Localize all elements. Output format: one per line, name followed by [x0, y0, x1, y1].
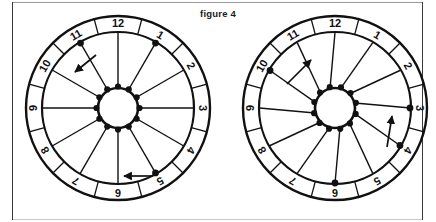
ring-segment-divider — [389, 43, 400, 54]
hub-dot — [338, 84, 344, 90]
direction-arrow-upper-left — [287, 60, 311, 84]
ring-number-9: 9 — [27, 105, 39, 111]
ring-segment-divider — [29, 84, 44, 88]
ring-segment-divider — [172, 43, 183, 54]
figure-canvas: figure 4 121234567891011 121234567891011 — [0, 0, 436, 222]
spoke — [136, 70, 184, 98]
hub-dot — [134, 116, 140, 122]
ring-number-7: 7 — [70, 175, 81, 188]
hub-dot — [317, 89, 323, 95]
ring-segment-divider — [172, 162, 183, 173]
ring-segment-divider — [191, 84, 206, 88]
ring-segment-divider — [389, 162, 400, 173]
page-frame-top-rule — [12, 2, 423, 3]
ring-segment-divider — [53, 162, 64, 173]
spoke — [128, 126, 156, 174]
spoke — [270, 70, 316, 102]
hub-dot — [326, 126, 332, 132]
ring-number-12: 12 — [112, 17, 124, 29]
hub-dot — [96, 116, 102, 122]
spoke — [297, 128, 329, 174]
ring-number-2: 2 — [185, 60, 198, 71]
spoke — [53, 70, 101, 98]
wheel-left-svg: 121234567891011 — [18, 8, 218, 208]
ring-segment-divider — [53, 43, 64, 54]
spoke — [330, 33, 335, 89]
hub-dot — [327, 84, 333, 90]
spoke — [260, 108, 316, 113]
hub-dot — [126, 86, 132, 92]
hub-dot — [134, 94, 140, 100]
ring-number-9: 9 — [244, 105, 256, 111]
wheel-left: 121234567891011 — [18, 8, 218, 212]
hub-dot — [311, 99, 317, 105]
rim-dot-4 — [397, 142, 404, 149]
hub-dot — [347, 90, 353, 96]
wheel-right: 121234567891011 — [235, 8, 435, 212]
spoke — [335, 128, 340, 184]
ring-segment-divider — [246, 84, 261, 88]
ring-segment-divider — [191, 128, 206, 132]
page-frame-bottom-rule — [12, 219, 423, 220]
direction-arrow-right — [387, 116, 392, 147]
hub-dot — [96, 94, 102, 100]
ring-number-5: 5 — [155, 175, 166, 188]
rim-dot-6 — [332, 180, 339, 187]
spoke — [270, 122, 321, 146]
ring-segment-divider — [29, 128, 44, 132]
spoke — [80, 43, 108, 91]
hub-dot — [115, 126, 121, 132]
hub-dot — [93, 105, 99, 111]
ring-segment-divider — [94, 19, 98, 34]
ring-segment-divider — [355, 181, 359, 196]
spoke — [341, 43, 373, 89]
ring-number-1: 1 — [372, 28, 383, 41]
page-frame-left-rule — [12, 2, 13, 220]
ring-number-6: 6 — [115, 187, 121, 199]
ring-segment-divider — [270, 162, 281, 173]
hub-dot — [353, 100, 359, 106]
rim-dot-1 — [152, 40, 159, 47]
wheel-right-svg: 121234567891011 — [235, 8, 435, 208]
ring-segment-divider — [94, 181, 98, 196]
ring-number-6: 6 — [332, 187, 338, 199]
ring-number-1: 1 — [155, 28, 166, 41]
spoke — [355, 103, 411, 108]
spoke — [349, 123, 373, 174]
hub-dot — [353, 111, 359, 117]
hub-dot — [104, 124, 110, 130]
spoke — [128, 43, 156, 91]
rim-dot-5 — [152, 170, 159, 177]
hub-dot — [347, 120, 353, 126]
hub-dot — [311, 110, 317, 116]
ring-number-8: 8 — [255, 145, 268, 156]
rim-dot-10 — [267, 67, 274, 74]
ring-segment-divider — [311, 19, 315, 34]
hub-dot — [337, 126, 343, 132]
hub-circle — [98, 88, 138, 128]
ring-number-2: 2 — [402, 60, 415, 71]
ring-segment-divider — [270, 43, 281, 54]
hub-dot — [104, 86, 110, 92]
ring-number-5: 5 — [372, 175, 383, 188]
ring-segment-divider — [311, 181, 315, 196]
ring-number-3: 3 — [197, 105, 209, 111]
ring-number-7: 7 — [287, 175, 298, 188]
hub-dot — [136, 105, 142, 111]
rim-dot-11 — [77, 40, 84, 47]
ring-segment-divider — [138, 181, 142, 196]
spoke — [350, 70, 401, 94]
ring-segment-divider — [355, 19, 359, 34]
ring-number-12: 12 — [329, 17, 341, 29]
ring-segment-divider — [246, 128, 261, 132]
ring-number-8: 8 — [38, 145, 51, 156]
hub-dot — [115, 83, 121, 89]
rim-dot-3 — [407, 105, 414, 112]
ring-segment-divider — [138, 19, 142, 34]
spoke — [80, 126, 108, 174]
ring-number-4: 4 — [184, 145, 198, 157]
hub-dot — [126, 124, 132, 130]
ring-number-3: 3 — [414, 105, 426, 111]
hub-dot — [316, 120, 322, 126]
ring-segment-divider — [408, 84, 423, 88]
